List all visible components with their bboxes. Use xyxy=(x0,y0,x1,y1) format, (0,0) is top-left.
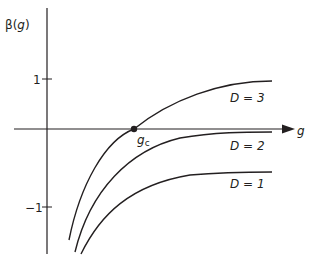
x-axis-label: g xyxy=(297,124,305,138)
label-d2: D = 2 xyxy=(230,139,265,153)
critical-point-marker xyxy=(131,126,137,132)
tick-label-neg1: −1 xyxy=(25,201,43,215)
critical-point-label: gc xyxy=(137,133,150,148)
label-d3: D = 3 xyxy=(230,91,265,105)
label-d1: D = 1 xyxy=(230,177,265,191)
y-axis-label: β(g) xyxy=(5,18,30,32)
tick-label-pos1: 1 xyxy=(33,73,41,87)
beta-function-diagram: β(g) 1 −1 g gc D = 3 D = 2 D = 1 xyxy=(0,0,312,267)
x-axis-arrow-icon xyxy=(282,125,295,134)
